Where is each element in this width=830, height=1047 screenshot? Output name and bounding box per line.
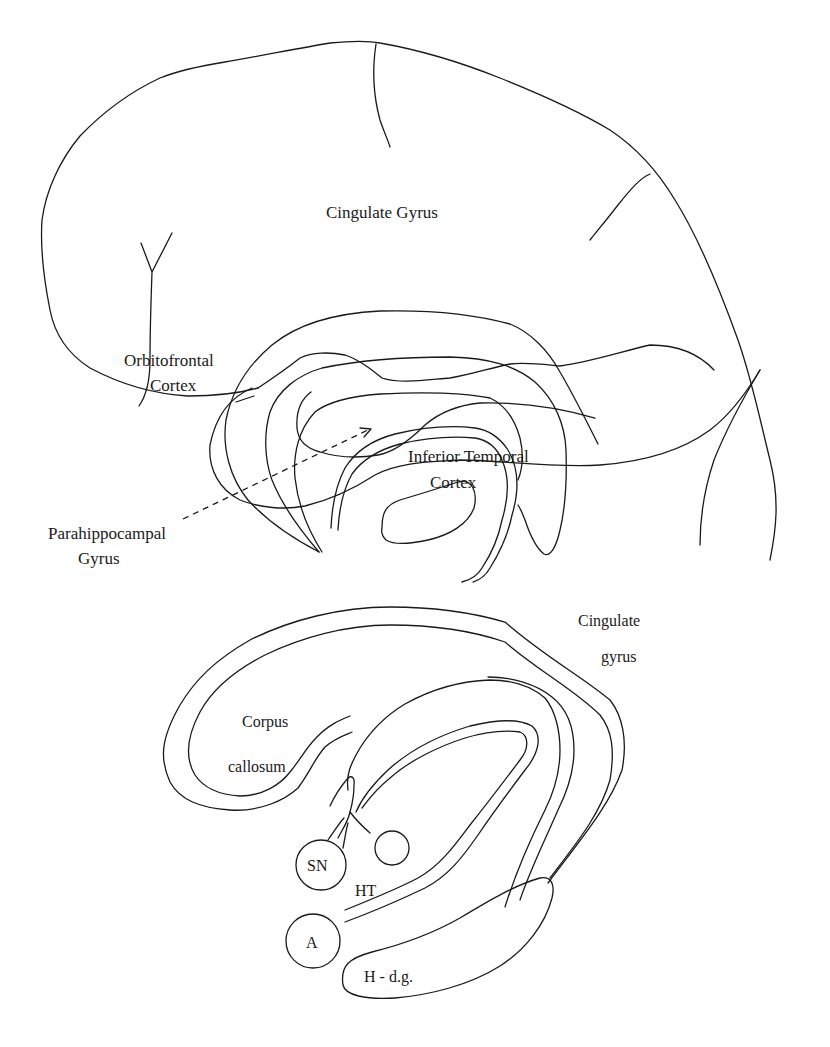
neuroanatomy-figure: Cingulate Gyrus Orbitofrontal Cortex Inf… <box>0 0 830 1047</box>
label-orbitofrontal-line1: Orbitofrontal <box>124 351 214 370</box>
label-corpus-line1: Corpus <box>242 713 288 731</box>
label-corpus-line2: callosum <box>228 758 286 775</box>
label-cingulate-gyrus: Cingulate Gyrus <box>326 203 438 222</box>
label-h-dg: H - d.g. <box>364 968 413 986</box>
label-parahippocampal-line1: Parahippocampal <box>48 524 166 543</box>
label-sn: SN <box>307 857 328 874</box>
label-inferior-temporal-line2: Cortex <box>430 473 477 492</box>
label-parahippocampal-line2: Gyrus <box>78 549 120 568</box>
label-cingulate-line1: Cingulate <box>578 612 640 630</box>
label-cingulate-line2: gyrus <box>601 648 637 666</box>
label-ht: HT <box>355 882 377 899</box>
label-orbitofrontal-line2: Cortex <box>150 376 197 395</box>
label-inferior-temporal-line1: Inferior Temporal <box>408 447 529 466</box>
label-a: A <box>306 934 318 951</box>
